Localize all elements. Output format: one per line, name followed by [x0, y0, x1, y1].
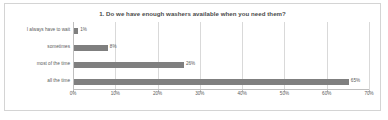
x-tick-label: 20%	[153, 92, 162, 97]
bar[interactable]	[74, 28, 78, 34]
bar-row[interactable]: 26%	[74, 56, 195, 73]
category-label: all the time	[8, 79, 70, 84]
chart-frame: 1. Do we have enough washers available w…	[4, 3, 381, 111]
bar-value-label: 8%	[110, 45, 117, 50]
x-tick-label: 30%	[195, 92, 204, 97]
plot-area: 1%8%26%65%	[73, 22, 369, 90]
x-axis-tick-labels: 0%10%20%30%40%50%60%70%	[73, 90, 369, 102]
x-tick-label: 40%	[238, 92, 247, 97]
category-axis-labels: I always have to waitsometimesmost of th…	[5, 22, 70, 90]
bar-row[interactable]: 65%	[74, 73, 360, 90]
x-tick-label: 10%	[111, 92, 120, 97]
bar-value-label: 1%	[80, 28, 87, 33]
bar-value-label: 26%	[186, 62, 195, 67]
x-tick-label: 50%	[280, 92, 289, 97]
gridline	[369, 22, 370, 90]
category-label: I always have to wait	[8, 28, 70, 33]
x-tick-label: 0%	[70, 92, 77, 97]
bar-row[interactable]: 8%	[74, 39, 116, 56]
bar[interactable]	[74, 45, 108, 51]
bar[interactable]	[74, 62, 184, 68]
x-tick-label: 60%	[322, 92, 331, 97]
x-tick-label: 70%	[364, 92, 373, 97]
bar[interactable]	[74, 79, 349, 85]
category-label: most of the time	[8, 62, 70, 67]
category-label: sometimes	[8, 45, 70, 50]
bar-value-label: 65%	[351, 79, 360, 84]
bar-row[interactable]: 1%	[74, 22, 87, 39]
chart-title: 1. Do we have enough washers available w…	[5, 10, 380, 17]
